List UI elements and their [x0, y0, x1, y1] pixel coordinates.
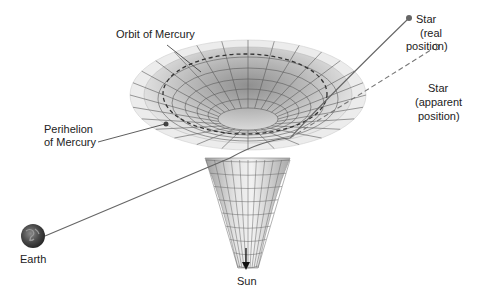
- perihelion-leader-line: [98, 124, 165, 142]
- star-apparent-label-line3: position): [418, 110, 460, 122]
- earth-label: Earth: [20, 253, 46, 265]
- diagram-canvas: Orbit of Mercury Perihelion of Mercury S…: [0, 0, 483, 294]
- star-apparent-label-line1: Star: [428, 82, 449, 94]
- star-apparent-label-line2: (apparent: [415, 96, 462, 108]
- earth-icon: [21, 224, 45, 248]
- star-real-label-line2: (real: [420, 27, 442, 39]
- sun-label: Sun: [237, 275, 257, 287]
- perihelion-label-line2: of Mercury: [44, 136, 96, 148]
- star-real-label-line3: position): [406, 40, 448, 52]
- funnel-tube: [205, 158, 290, 268]
- spacetime-diagram: Orbit of Mercury Perihelion of Mercury S…: [0, 0, 483, 294]
- orbit-label: Orbit of Mercury: [116, 28, 195, 40]
- star-real-label-line1: Star: [416, 13, 437, 25]
- perihelion-label-line1: Perihelion: [44, 123, 93, 135]
- star-real-icon: [406, 15, 412, 21]
